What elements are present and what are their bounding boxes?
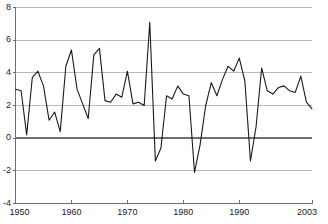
y-tick-label--2: -2 — [0, 166, 11, 175]
y-tick-label-0: 0 — [0, 133, 11, 142]
x-tick-label-1970: 1970 — [107, 208, 147, 217]
line-chart-plot — [0, 0, 328, 224]
y-tick-label-8: 8 — [0, 3, 11, 12]
x-tick-label-1960: 1960 — [51, 208, 91, 217]
chart-container: 86420-2-4 195019601970198019902003 — [0, 0, 328, 224]
y-tick-label-6: 6 — [0, 35, 11, 44]
y-tick-label-4: 4 — [0, 68, 11, 77]
y-tick-label-2: 2 — [0, 101, 11, 110]
gridlines — [16, 8, 313, 204]
x-tick-label-1990: 1990 — [219, 208, 259, 217]
series-line-annual-rate — [16, 22, 313, 172]
x-tick-label-2003: 2003 — [287, 208, 327, 217]
x-tick-label-1980: 1980 — [163, 208, 203, 217]
x-tick-label-1950: 1950 — [0, 208, 40, 217]
